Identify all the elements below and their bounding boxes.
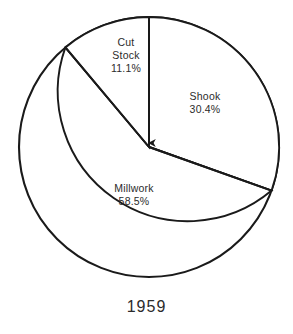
pie-chart-figure: Cut Stock 11.1% Shook 30.4% Millwork 58.… <box>0 0 293 334</box>
slice-label-millwork-value: 58.5% <box>95 195 173 208</box>
slice-label-millwork-name: Millwork <box>95 182 173 195</box>
slice-label-shook-value: 30.4% <box>176 103 234 116</box>
slice-label-cut-stock: Cut Stock 11.1% <box>100 36 152 75</box>
slice-label-shook: Shook 30.4% <box>176 90 234 116</box>
slice-label-cut-stock-name-line2: Stock <box>100 49 152 62</box>
slice-label-cut-stock-value: 11.1% <box>100 62 152 75</box>
slice-label-millwork: Millwork 58.5% <box>95 182 173 208</box>
chart-caption-year: 1959 <box>0 298 293 316</box>
slice-label-shook-name: Shook <box>176 90 234 103</box>
slice-label-cut-stock-name-line1: Cut <box>100 36 152 49</box>
